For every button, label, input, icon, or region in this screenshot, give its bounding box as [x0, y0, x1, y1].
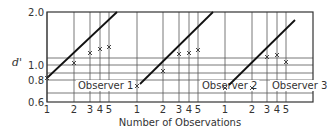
chart: Observer 112345Observer 212345Observer 3…	[0, 0, 330, 136]
x-tick-label: 4	[97, 104, 103, 115]
x-tick-label: 1	[44, 104, 50, 115]
x-tick-label: 3	[176, 104, 182, 115]
y-tick-label: 0.8	[28, 75, 44, 86]
x-axis-title: Number of Observations	[119, 117, 241, 128]
x-tick-label: 5	[106, 104, 112, 115]
x-tick-label: 4	[186, 104, 192, 115]
x-tick-label: 2	[160, 104, 166, 115]
x-tick-label: 1	[222, 104, 228, 115]
x-tick-label: 4	[274, 104, 280, 115]
x-tick-label: 1	[134, 104, 140, 115]
x-tick-label: 3	[87, 104, 93, 115]
y-axis-title: d'	[12, 56, 22, 69]
y-tick-label: 1.0	[28, 60, 44, 71]
y-tick-label: 2.0	[28, 7, 44, 18]
x-tick-label: 5	[195, 104, 201, 115]
x-tick-label: 5	[283, 104, 289, 115]
y-tick-label: 0.6	[28, 97, 44, 108]
x-tick-label: 2	[71, 104, 77, 115]
x-tick-label: 3	[264, 104, 270, 115]
series-label: Observer 3	[272, 80, 327, 91]
series-label: Observer 1	[78, 80, 133, 91]
x-tick-label: 2	[249, 104, 255, 115]
prediction-line	[47, 12, 117, 78]
prediction-line	[229, 20, 295, 85]
